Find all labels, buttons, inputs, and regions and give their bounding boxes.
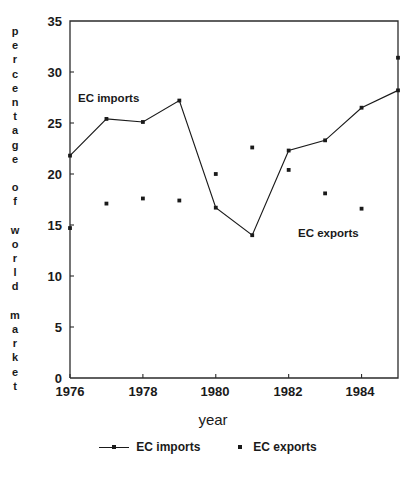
- data-point-marker: [250, 146, 254, 150]
- data-point-marker: [360, 207, 364, 211]
- annotation-ec-exports: EC exports: [298, 227, 359, 239]
- y-axis-title: percentage of world market: [6, 24, 24, 393]
- y-axis-title-letter: f: [13, 194, 17, 208]
- y-axis-title-letter: l: [13, 265, 16, 279]
- legend-label-ec-exports: EC exports: [253, 440, 316, 454]
- legend-dot-marker-icon: [234, 442, 246, 452]
- x-tick-label-1980: 1980: [190, 384, 240, 399]
- data-point-marker: [141, 197, 145, 201]
- chart-legend: EC imports EC exports: [0, 440, 416, 454]
- y-axis-title-letter: [13, 294, 16, 308]
- x-tick-label-1984: 1984: [335, 384, 385, 399]
- y-axis-title-letter: o: [12, 237, 19, 251]
- y-axis-title-letter: [13, 208, 16, 222]
- x-tick-label-1978: 1978: [118, 384, 168, 399]
- plot-area: [0, 0, 416, 481]
- legend-label-ec-imports: EC imports: [136, 440, 200, 454]
- y-tick-label-30: 30: [32, 65, 62, 80]
- y-axis-title-letter: c: [12, 67, 18, 81]
- y-axis-title-letter: r: [13, 52, 17, 66]
- data-point-marker: [68, 226, 72, 230]
- data-point-marker: [141, 120, 145, 124]
- y-axis-title-letter: g: [12, 138, 19, 152]
- y-axis-title-letter: [13, 166, 16, 180]
- annotation-ec-imports: EC imports: [78, 92, 139, 104]
- data-point-marker: [323, 138, 327, 142]
- legend-entry-ec-imports: EC imports: [99, 440, 200, 454]
- series-line: [70, 90, 398, 235]
- y-axis-title-letter: o: [12, 180, 19, 194]
- x-axis-title: year: [183, 411, 243, 428]
- y-axis-title-letter: m: [10, 308, 20, 322]
- y-axis-title-letter: d: [12, 279, 19, 293]
- data-point-marker: [177, 99, 181, 103]
- data-point-marker: [396, 88, 400, 92]
- data-point-marker: [287, 168, 291, 172]
- y-tick-label-15: 15: [32, 218, 62, 233]
- y-tick-label-35: 35: [32, 14, 62, 29]
- y-axis-title-letter: e: [12, 152, 18, 166]
- data-point-marker: [250, 233, 254, 237]
- y-axis-title-letter: n: [12, 95, 19, 109]
- y-axis-title-letter: t: [13, 109, 17, 123]
- data-point-marker: [323, 191, 327, 195]
- data-point-marker: [360, 106, 364, 110]
- y-axis-title-letter: a: [12, 123, 18, 137]
- data-point-marker: [287, 149, 291, 153]
- y-axis-title-letter: e: [12, 365, 18, 379]
- y-axis-title-letter: r: [13, 251, 17, 265]
- y-axis-title-letter: e: [12, 38, 18, 52]
- legend-entry-ec-exports: EC exports: [234, 440, 316, 454]
- x-tick-label-1982: 1982: [263, 384, 313, 399]
- y-axis-title-letter: e: [12, 81, 18, 95]
- data-point-marker: [68, 154, 72, 158]
- y-axis-title-letter: p: [12, 24, 19, 38]
- y-axis-title-letter: k: [12, 350, 18, 364]
- axis-frame: [70, 21, 398, 378]
- series-ec-exports: [68, 56, 400, 230]
- data-point-marker: [105, 202, 109, 206]
- y-axis-title-letter: r: [13, 336, 17, 350]
- y-tick-label-5: 5: [32, 320, 62, 335]
- data-point-marker: [177, 199, 181, 203]
- x-tick-label-1976: 1976: [45, 384, 95, 399]
- data-point-marker: [105, 117, 109, 121]
- data-point-marker: [214, 206, 218, 210]
- y-axis-title-letter: w: [11, 223, 20, 237]
- y-axis-title-letter: a: [12, 322, 18, 336]
- y-tick-label-20: 20: [32, 167, 62, 182]
- chart-figure: percentage of world market 35 30 25 20 1…: [0, 0, 416, 481]
- legend-line-marker-icon: [99, 442, 129, 452]
- data-point-marker: [396, 56, 400, 60]
- y-axis-title-letter: t: [13, 379, 17, 393]
- y-tick-label-25: 25: [32, 116, 62, 131]
- series-ec-imports: [68, 88, 400, 237]
- y-tick-label-10: 10: [32, 269, 62, 284]
- data-point-marker: [214, 172, 218, 176]
